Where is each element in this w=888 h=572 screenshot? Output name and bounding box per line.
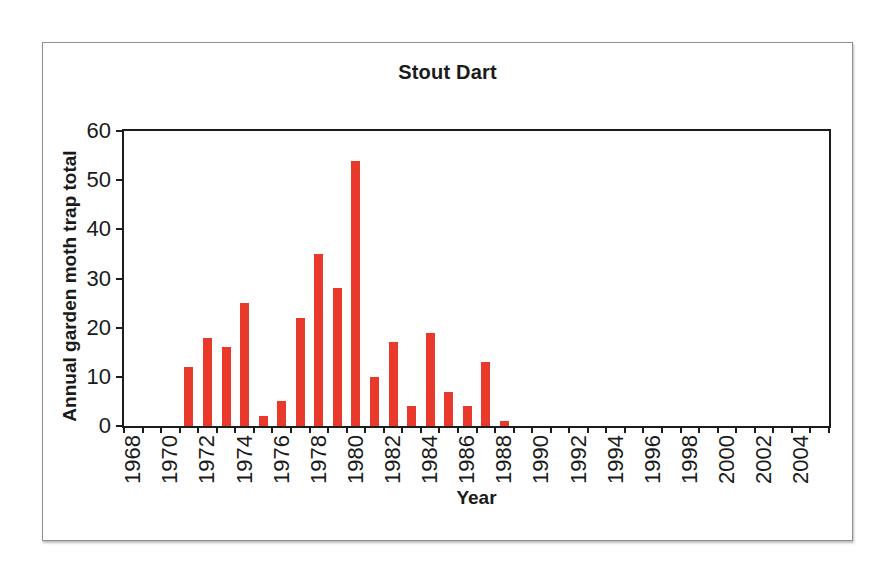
- x-tick-mark: [420, 426, 422, 433]
- bar-1979: [333, 288, 342, 426]
- bar-1981: [370, 377, 379, 426]
- x-tick-label: 1984: [419, 435, 440, 484]
- x-tick-mark: [216, 426, 218, 433]
- y-tick-label: 50: [43, 168, 111, 192]
- x-tick-mark: [809, 426, 811, 433]
- x-tick-mark: [680, 426, 682, 433]
- y-tick-label: 10: [43, 365, 111, 389]
- x-tick-mark: [754, 426, 756, 433]
- x-tick-label: 1996: [642, 435, 663, 484]
- bar-1974: [240, 303, 249, 426]
- x-tick-mark: [661, 426, 663, 433]
- x-tick-mark: [123, 426, 125, 433]
- chart-frame: Stout Dart Annual garden moth trap total…: [42, 42, 853, 541]
- y-tick-mark: [116, 327, 124, 329]
- bar-1977: [296, 318, 305, 426]
- y-tick-mark: [116, 130, 124, 132]
- x-tick-mark: [642, 426, 644, 433]
- x-tick-mark: [271, 426, 273, 433]
- x-tick-mark: [309, 426, 311, 433]
- x-tick-label: 1978: [308, 435, 329, 484]
- x-tick-label: 1994: [605, 435, 626, 484]
- x-tick-label: 1974: [234, 435, 255, 484]
- x-tick-label: 2004: [790, 435, 811, 484]
- x-tick-mark: [253, 426, 255, 433]
- y-tick-label: 0: [43, 414, 111, 438]
- x-tick-label: 2000: [716, 435, 737, 484]
- x-tick-mark: [364, 426, 366, 433]
- x-tick-mark: [346, 426, 348, 433]
- x-tick-mark: [791, 426, 793, 433]
- x-tick-mark: [828, 426, 830, 433]
- bar-1972: [203, 338, 212, 427]
- y-tick-label: 60: [43, 119, 111, 143]
- y-tick-label: 20: [43, 316, 111, 340]
- bar-1978: [314, 254, 323, 426]
- x-tick-label: 1982: [382, 435, 403, 484]
- x-tick-mark: [327, 426, 329, 433]
- x-tick-mark: [513, 426, 515, 433]
- x-tick-label: 1992: [568, 435, 589, 484]
- x-tick-label: 1990: [530, 435, 551, 484]
- x-tick-label: 1968: [122, 435, 143, 484]
- x-tick-label: 1970: [159, 435, 180, 484]
- x-tick-label: 1976: [271, 435, 292, 484]
- x-tick-mark: [457, 426, 459, 433]
- x-tick-mark: [438, 426, 440, 433]
- x-tick-mark: [476, 426, 478, 433]
- x-tick-mark: [735, 426, 737, 433]
- x-tick-mark: [605, 426, 607, 433]
- bar-1984: [426, 333, 435, 426]
- y-tick-mark: [116, 376, 124, 378]
- y-tick-label: 40: [43, 217, 111, 241]
- x-tick-label: 2002: [753, 435, 774, 484]
- x-tick-label: 1972: [196, 435, 217, 484]
- x-tick-mark: [234, 426, 236, 433]
- x-tick-mark: [772, 426, 774, 433]
- x-tick-mark: [531, 426, 533, 433]
- x-tick-label: 1986: [456, 435, 477, 484]
- bar-1983: [407, 406, 416, 426]
- y-tick-mark: [116, 228, 124, 230]
- x-tick-mark: [142, 426, 144, 433]
- x-tick-mark: [290, 426, 292, 433]
- chart-title: Stout Dart: [43, 61, 852, 84]
- bar-1988: [500, 421, 509, 426]
- x-tick-mark: [197, 426, 199, 433]
- x-axis-title: Year: [124, 487, 829, 509]
- x-tick-mark: [383, 426, 385, 433]
- x-tick-mark: [624, 426, 626, 433]
- x-tick-label: 1988: [493, 435, 514, 484]
- x-tick-mark: [160, 426, 162, 433]
- x-tick-mark: [494, 426, 496, 433]
- bar-1986: [463, 406, 472, 426]
- x-tick-mark: [587, 426, 589, 433]
- x-tick-mark: [401, 426, 403, 433]
- x-tick-mark: [717, 426, 719, 433]
- bar-1980: [351, 161, 360, 427]
- x-tick-mark: [550, 426, 552, 433]
- x-tick-mark: [698, 426, 700, 433]
- bar-1973: [222, 347, 231, 426]
- x-tick-label: 1998: [679, 435, 700, 484]
- x-tick-mark: [568, 426, 570, 433]
- x-tick-label: 1980: [345, 435, 366, 484]
- bar-1985: [444, 392, 453, 426]
- y-tick-label: 30: [43, 267, 111, 291]
- figure-canvas: Stout Dart Annual garden moth trap total…: [0, 0, 888, 572]
- y-tick-mark: [116, 278, 124, 280]
- bar-1976: [277, 401, 286, 426]
- bar-1975: [259, 416, 268, 426]
- bar-1971: [184, 367, 193, 426]
- bar-1987: [481, 362, 490, 426]
- bar-1982: [389, 342, 398, 426]
- x-tick-mark: [179, 426, 181, 433]
- y-tick-mark: [116, 179, 124, 181]
